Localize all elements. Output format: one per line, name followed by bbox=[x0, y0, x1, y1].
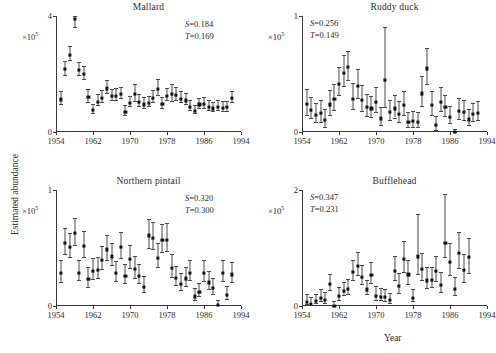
panel-title: Bufflehead bbox=[302, 176, 487, 186]
error-bar-cap-upper bbox=[319, 289, 323, 290]
panel-statistics-annotation: S=0.347T=0.231 bbox=[310, 191, 339, 216]
data-point-marker bbox=[462, 269, 465, 272]
error-bar-cap-upper bbox=[393, 256, 397, 257]
error-bar-cap-upper bbox=[457, 232, 461, 233]
error-bar-cap-lower bbox=[397, 293, 401, 294]
data-point-marker bbox=[374, 294, 377, 297]
error-bar-cap-lower bbox=[443, 257, 447, 258]
error-bar-cap-upper bbox=[388, 293, 392, 294]
error-bar bbox=[366, 280, 367, 294]
data-point-marker bbox=[425, 279, 428, 282]
error-bar bbox=[348, 279, 349, 294]
error-bar bbox=[445, 194, 446, 257]
error-bar-cap-upper bbox=[430, 267, 434, 268]
x-axis-tick bbox=[302, 306, 303, 309]
error-bar-cap-upper bbox=[305, 294, 309, 295]
stat-t-value: T=0.231 bbox=[310, 203, 339, 215]
error-bar-cap-upper bbox=[346, 279, 350, 280]
error-bar-cap-upper bbox=[351, 260, 355, 261]
error-bar-cap-upper bbox=[342, 282, 346, 283]
panel-bufflehead: Bufflehead×10502195419621970197819861994… bbox=[0, 0, 496, 353]
error-bar bbox=[343, 282, 344, 296]
data-point-marker bbox=[333, 304, 336, 307]
x-axis-line bbox=[302, 305, 487, 306]
error-bar-cap-lower bbox=[360, 284, 364, 285]
y-axis-exponent-label: ×105 bbox=[268, 204, 284, 216]
data-point-marker bbox=[319, 296, 322, 299]
data-point-marker bbox=[365, 288, 368, 291]
y-axis-tick bbox=[299, 306, 302, 307]
data-point-marker bbox=[370, 274, 373, 277]
data-point-marker bbox=[393, 269, 396, 272]
y-axis-line bbox=[302, 190, 303, 306]
data-point-marker bbox=[305, 300, 308, 303]
x-axis-tick-label: 1986 bbox=[442, 310, 459, 320]
error-bar-cap-upper bbox=[360, 265, 364, 266]
error-bar bbox=[459, 232, 460, 267]
error-bar-cap-upper bbox=[379, 288, 383, 289]
error-bar bbox=[371, 262, 372, 283]
y-axis-tick bbox=[299, 190, 302, 191]
data-point-marker bbox=[361, 276, 364, 279]
data-point-marker bbox=[398, 285, 401, 288]
data-point-marker bbox=[430, 279, 433, 282]
error-bar-cap-lower bbox=[369, 283, 373, 284]
error-bar-cap-upper bbox=[420, 253, 424, 254]
error-bar-cap-upper bbox=[356, 252, 360, 253]
figure-multi-panel-abundance: Estimated abundance Year Mallard×1050419… bbox=[0, 0, 496, 353]
error-bar-cap-lower bbox=[337, 300, 341, 301]
error-bar-cap-lower bbox=[365, 294, 369, 295]
data-point-marker bbox=[458, 251, 461, 254]
error-bar-cap-lower bbox=[379, 300, 383, 301]
error-bar bbox=[454, 277, 455, 295]
error-bar-cap-upper bbox=[448, 243, 452, 244]
error-bar bbox=[408, 260, 409, 284]
error-bar bbox=[362, 265, 363, 284]
error-bar bbox=[399, 273, 400, 293]
error-bar-cap-lower bbox=[439, 292, 443, 293]
error-bar-cap-lower bbox=[420, 280, 424, 281]
error-bar bbox=[376, 286, 377, 300]
x-axis-tick bbox=[450, 306, 451, 309]
error-bar bbox=[417, 214, 418, 273]
error-bar-cap-upper bbox=[314, 294, 318, 295]
data-point-marker bbox=[342, 289, 345, 292]
error-bar-cap-upper bbox=[309, 297, 313, 298]
error-bar-cap-upper bbox=[397, 273, 401, 274]
x-axis-tick bbox=[376, 306, 377, 309]
data-point-marker bbox=[384, 296, 387, 299]
error-bar-cap-upper bbox=[374, 286, 378, 287]
data-point-marker bbox=[407, 273, 410, 276]
error-bar-cap-upper bbox=[439, 272, 443, 273]
error-bar-cap-lower bbox=[383, 301, 387, 302]
data-point-marker bbox=[388, 299, 391, 302]
error-bar-cap-lower bbox=[402, 272, 406, 273]
error-bar-cap-lower bbox=[356, 275, 360, 276]
x-axis-tick-label: 1962 bbox=[331, 310, 348, 320]
error-bar-cap-lower bbox=[448, 275, 452, 276]
data-point-marker bbox=[337, 295, 340, 298]
x-axis-tick-label: 1994 bbox=[479, 310, 496, 320]
error-bar bbox=[440, 272, 441, 291]
data-point-marker bbox=[448, 260, 451, 263]
x-axis-tick-label: 1954 bbox=[294, 310, 311, 320]
error-bar bbox=[431, 267, 432, 287]
data-point-marker bbox=[347, 287, 350, 290]
data-point-marker bbox=[324, 298, 327, 301]
data-point-marker bbox=[453, 287, 456, 290]
data-point-marker bbox=[351, 271, 354, 274]
x-axis-tick bbox=[339, 306, 340, 309]
error-bar-cap-lower bbox=[434, 281, 438, 282]
error-bar-cap-lower bbox=[328, 290, 332, 291]
data-point-marker bbox=[421, 268, 424, 271]
error-bar-cap-lower bbox=[305, 304, 309, 305]
error-bar-cap-upper bbox=[406, 260, 410, 261]
error-bar-cap-upper bbox=[462, 254, 466, 255]
data-point-marker bbox=[435, 269, 438, 272]
data-point-marker bbox=[467, 256, 470, 259]
error-bar-cap-upper bbox=[328, 274, 332, 275]
error-bar-cap-upper bbox=[443, 194, 447, 195]
error-bar-cap-lower bbox=[467, 273, 471, 274]
data-point-marker bbox=[379, 295, 382, 298]
data-point-marker bbox=[356, 264, 359, 267]
